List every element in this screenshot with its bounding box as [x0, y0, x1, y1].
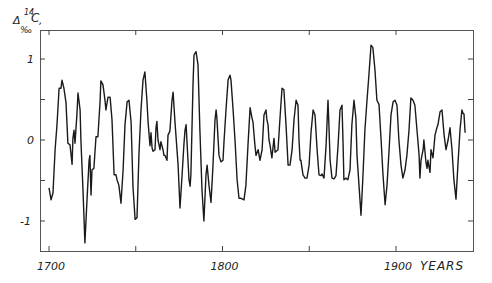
y-tick-label: -1	[20, 215, 31, 228]
y-label-permil: ‰	[20, 25, 32, 35]
y-tick-label: 0	[27, 134, 34, 147]
y-label-comma: ,	[39, 15, 42, 26]
axis-tick-labels: 17001800190010-1	[20, 53, 412, 273]
x-tick-label: 1700	[37, 260, 65, 273]
delta-c14-chart: 17001800190010-1 Δ 14 C , ‰ YEARS	[0, 0, 492, 283]
delta-c14-series-line	[49, 45, 465, 243]
y-axis-label: Δ 14 C , ‰	[12, 8, 42, 35]
x-tick-label: 1800	[211, 260, 239, 273]
y-tick-label: 1	[27, 53, 34, 66]
x-tick-label: 1900	[384, 260, 412, 273]
x-axis-title: YEARS	[420, 259, 464, 273]
